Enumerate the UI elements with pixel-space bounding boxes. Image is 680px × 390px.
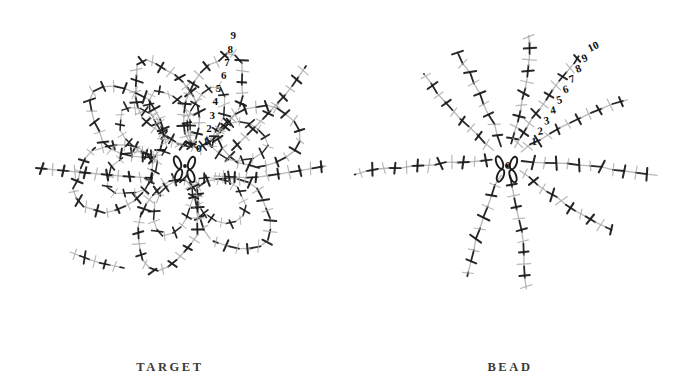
target-helix-label-8: 8 (227, 43, 233, 55)
target-helix-label-3: 3 (209, 109, 215, 121)
panel-target: 1234567890 TARGET (0, 0, 340, 390)
bead-helix-label-10: 10 (585, 38, 601, 54)
target-helix-label-2: 2 (206, 122, 212, 134)
panel-target-caption: TARGET (0, 360, 340, 374)
figure-root: 1234567890 TARGET 123456789100 BEAD (0, 0, 680, 390)
bead-diagram: 123456789100 (340, 0, 680, 352)
panel-bead-caption: BEAD (340, 360, 680, 374)
bead-helix-label-4: 4 (549, 103, 557, 116)
bead-helix-label-3: 3 (543, 114, 551, 127)
target-helix-label-6: 6 (221, 69, 227, 81)
target-helix-label-5: 5 (216, 82, 222, 94)
bead-origin-label: 0 (505, 159, 511, 171)
bead-helix-label-7: 7 (567, 72, 577, 85)
target-diagram: 1234567890 (0, 0, 340, 352)
bead-helix-label-9: 9 (579, 51, 589, 64)
target-helix-label-1: 1 (203, 135, 209, 147)
target-helix-label-7: 7 (224, 56, 230, 68)
target-helix-label-9: 9 (231, 29, 237, 41)
bead-helix-label-5: 5 (555, 93, 564, 106)
target-origin-label: 0 (196, 142, 202, 154)
bead-helix-label-2: 2 (537, 124, 545, 137)
target-helix-label-4: 4 (213, 95, 219, 107)
bead-helix-label-6: 6 (561, 82, 570, 95)
panel-bead: 123456789100 BEAD (340, 0, 680, 390)
